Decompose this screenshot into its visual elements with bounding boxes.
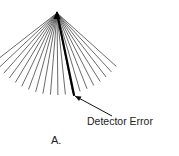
- fan-ray: [9, 13, 57, 78]
- annotation-arrow: [75, 96, 112, 116]
- fan-ray: [57, 13, 112, 72]
- detector-error-ray: [57, 13, 74, 95]
- panel-label: A.: [51, 134, 61, 146]
- fan-beam-diagram: [0, 0, 179, 156]
- detector-error-label: Detector Error: [87, 115, 153, 127]
- fan-rays: [0, 13, 116, 95]
- fan-ray: [57, 13, 87, 89]
- fan-ray: [0, 13, 57, 62]
- fan-ray: [57, 13, 65, 95]
- fan-ray: [0, 13, 57, 68]
- fan-ray: [57, 13, 58, 95]
